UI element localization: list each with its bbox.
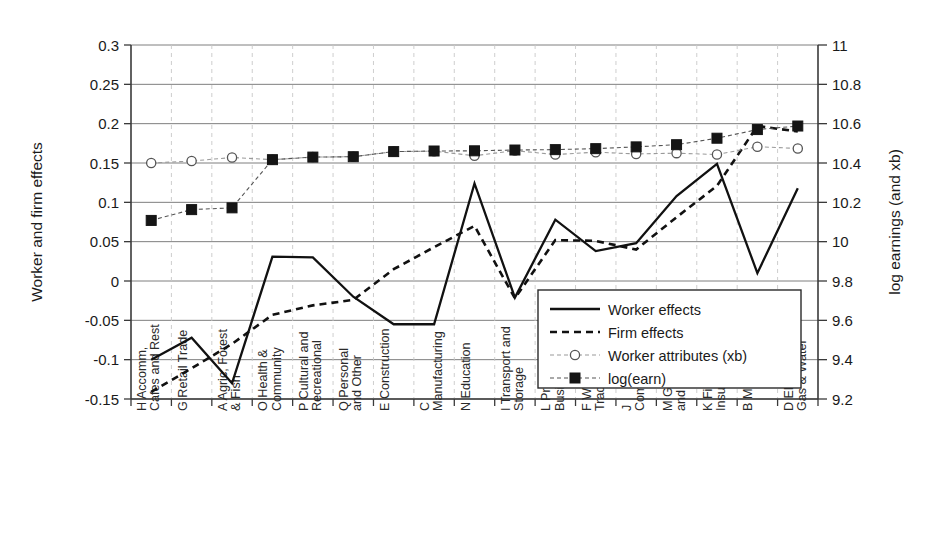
x-category-label: A Agric, Forest — [216, 329, 230, 411]
y-tick-label-left: 0.15 — [90, 155, 119, 172]
y-tick-label-left: -0.15 — [85, 391, 119, 408]
y-tick-label-right: 10 — [832, 233, 849, 250]
x-category-label: I Transport and — [499, 326, 513, 411]
x-category-label: Recreational — [310, 340, 324, 411]
data-point-marker — [793, 121, 803, 131]
data-point-marker — [712, 150, 721, 159]
y-tick-label-left: 0.25 — [90, 76, 119, 93]
x-category-label: C — [418, 402, 432, 411]
x-category-label: N Education — [459, 342, 473, 411]
y-tick-label-left: 0.05 — [90, 233, 119, 250]
data-point-marker — [187, 156, 196, 165]
x-category-label: & Fish — [229, 375, 243, 411]
data-point-marker — [591, 144, 601, 154]
x-category-label: Manufacturing — [431, 331, 445, 411]
series-line — [151, 126, 798, 220]
industry-effects-chart: -0.15-0.1-0.0500.050.10.150.20.250.39.29… — [0, 0, 932, 539]
data-point-marker — [550, 145, 560, 155]
x-category-label: and Other — [350, 355, 364, 411]
data-point-marker — [672, 140, 682, 150]
data-point-marker — [147, 158, 156, 167]
legend: Worker effectsFirm effectsWorker attribu… — [538, 290, 801, 388]
y-tick-label-right: 9.4 — [832, 351, 853, 368]
y-tick-label-right: 9.2 — [832, 391, 853, 408]
data-point-marker — [187, 205, 197, 215]
y-tick-label-right: 9.8 — [832, 273, 853, 290]
data-point-marker — [227, 203, 237, 213]
y-tick-label-right: 9.6 — [832, 312, 853, 329]
y-tick-label-left: 0.2 — [98, 115, 119, 132]
x-category-label: Storage — [512, 367, 526, 411]
y-tick-label-left: 0.1 — [98, 194, 119, 211]
x-category-label: E Construction — [378, 328, 392, 411]
x-category-label: Community — [270, 347, 284, 411]
data-point-marker — [308, 152, 318, 162]
data-point-marker — [712, 133, 722, 143]
data-point-marker — [227, 153, 236, 162]
y-tick-label-right: 10.4 — [832, 155, 861, 172]
data-point-marker — [470, 146, 480, 156]
legend-label: Worker effects — [608, 302, 701, 318]
y-axis-title-right: log earnings (and xb) — [886, 149, 903, 295]
legend-label: Worker attributes (xb) — [608, 348, 747, 364]
x-category-label: Q Personal — [337, 348, 351, 411]
x-category-label: O Health & — [256, 349, 270, 411]
data-point-marker — [348, 152, 358, 162]
legend-label: log(earn) — [608, 371, 666, 387]
y-tick-label-right: 10.6 — [832, 115, 861, 132]
legend-label: Firm effects — [608, 325, 683, 341]
y-tick-label-right: 10.2 — [832, 194, 861, 211]
data-point-marker — [631, 142, 641, 152]
x-category-label: H Accomm, — [135, 347, 149, 411]
x-category-label: J — [620, 405, 634, 411]
legend-swatch-square-marker — [570, 373, 580, 383]
data-point-marker — [793, 144, 802, 153]
y-tick-label-left: 0.3 — [98, 37, 119, 54]
data-point-marker — [753, 142, 762, 151]
data-point-marker — [510, 145, 520, 155]
data-point-marker — [267, 155, 277, 165]
y-tick-label-right: 10.8 — [832, 76, 861, 93]
y-tick-label-right: 11 — [832, 37, 848, 54]
data-point-marker — [389, 147, 399, 157]
data-point-marker — [429, 146, 439, 156]
data-point-marker — [752, 125, 762, 135]
x-category-label: P Cultural and — [297, 331, 311, 411]
y-axis-title-left: Worker and firm effects — [28, 142, 45, 302]
data-point-marker — [146, 215, 156, 225]
y-tick-label-left: 0 — [111, 273, 119, 290]
y-tick-label-left: -0.1 — [93, 351, 119, 368]
chart-container: -0.15-0.1-0.0500.050.10.150.20.250.39.29… — [0, 0, 932, 539]
legend-swatch-circle-marker — [570, 350, 579, 359]
y-tick-label-left: -0.05 — [85, 312, 119, 329]
x-category-label: Cafes and Rest — [148, 324, 162, 411]
